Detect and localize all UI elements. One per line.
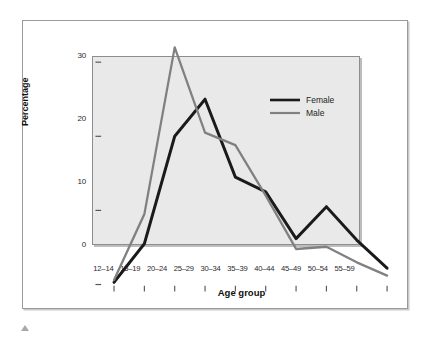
- y-axis-title: Percentage: [20, 77, 30, 126]
- figure-frame: Percentage 0 10 20 30 12–14 15–19 20–24 …: [22, 20, 408, 309]
- legend-entry-male: Male: [270, 106, 334, 119]
- legend-label-male: Male: [306, 108, 324, 118]
- caret-up-marker: [21, 325, 29, 331]
- y-tick-label-0: 0: [64, 240, 86, 249]
- legend-entry-female: Female: [270, 93, 334, 106]
- legend-swatch-male: [270, 108, 300, 118]
- y-tick-label-10: 10: [64, 177, 86, 186]
- plot-area: [92, 56, 360, 245]
- x-tick-label-55-59: 55–59: [328, 264, 362, 273]
- legend-label-female: Female: [306, 95, 334, 105]
- y-tick-label-20: 20: [64, 114, 86, 123]
- x-axis-title: Age group: [23, 287, 437, 298]
- chart-legend: Female Male: [270, 93, 334, 119]
- legend-swatch-female: [270, 95, 300, 105]
- y-tick-label-30: 30: [64, 51, 86, 60]
